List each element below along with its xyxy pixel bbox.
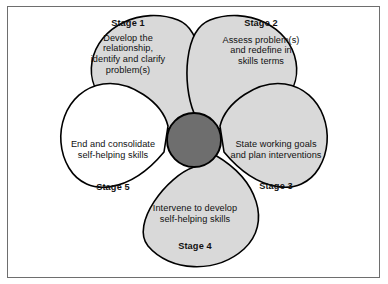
stage-2-description: Assess problem(s) and redefine in skills… — [196, 35, 326, 67]
stage-4-title: Stage 4 — [131, 241, 259, 252]
stage-5-description: End and consolidate self-helping skills — [51, 139, 175, 160]
stage-2-label-group: Stage 2 Assess problem(s) and redefine i… — [196, 18, 326, 67]
stage-3-description-line: State working goals — [214, 139, 338, 150]
stage-1-description-line: Develop the — [62, 33, 194, 44]
stage-2-title: Stage 2 — [196, 18, 326, 29]
stage-1-description-line: relationship, — [62, 43, 194, 54]
stage-2-description-line: skills terms — [196, 56, 326, 67]
stage-4-description: Intervene to develop self-helping skills — [131, 203, 259, 224]
stage-5-description-line: End and consolidate — [51, 139, 175, 150]
figure-root: Stage 1 Develop the relationship, identi… — [0, 0, 388, 284]
stage-4-description-line: Intervene to develop — [131, 203, 259, 214]
center-hub[interactable] — [167, 113, 221, 167]
stage-2-description-line: and redefine in — [196, 45, 326, 56]
stage-4-description-line: self-helping skills — [131, 214, 259, 225]
stage-3-description: State working goals and plan interventio… — [214, 139, 338, 160]
stage-3-label-group: State working goals and plan interventio… — [214, 139, 338, 192]
stage-1-description-line: problem(s) — [62, 65, 194, 76]
stage-4-label-group: Intervene to develop self-helping skills… — [131, 203, 259, 252]
stage-1-description-line: identify and clarify — [62, 54, 194, 65]
stage-3-title: Stage 3 — [214, 181, 338, 192]
stage-1-description: Develop the relationship, identify and c… — [62, 33, 194, 76]
stage-5-description-line: self-helping skills — [51, 150, 175, 161]
stage-5-title: Stage 5 — [51, 182, 175, 193]
stage-3-description-line: and plan interventions — [214, 150, 338, 161]
stage-2-description-line: Assess problem(s) — [196, 35, 326, 46]
stage-1-title: Stage 1 — [62, 18, 194, 29]
stage-5-label-group: End and consolidate self-helping skills … — [51, 139, 175, 193]
stage-1-label-group: Stage 1 Develop the relationship, identi… — [62, 18, 194, 75]
